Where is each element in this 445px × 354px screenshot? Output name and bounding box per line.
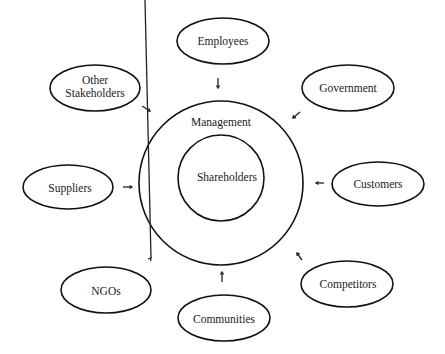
competitors-label: Competitors	[320, 278, 377, 291]
suppliers-label: Suppliers	[48, 182, 91, 195]
communities-label: Communities	[193, 313, 255, 326]
other-stakeholders-label: Other Stakeholders	[65, 74, 124, 100]
arrow-suppliers-icon	[123, 186, 132, 189]
arrow-employees-icon	[217, 78, 220, 88]
other-stakeholders-line1: Other	[65, 74, 124, 87]
ngos-label: NGOs	[91, 285, 120, 298]
shareholders-label: Shareholders	[197, 171, 257, 184]
arrow-government-icon	[293, 112, 300, 118]
arrow-other-stakeholders-icon	[142, 106, 150, 111]
arrow-customers-icon	[316, 182, 324, 185]
other-stakeholders-line2: Stakeholders	[65, 87, 124, 100]
management-label: Management	[191, 116, 251, 129]
employees-label: Employees	[197, 35, 248, 48]
arrow-communities-icon	[221, 272, 224, 282]
government-label: Government	[319, 82, 376, 95]
stakeholder-diagram: Management Shareholders Employees Other …	[0, 0, 445, 354]
arrow-competitors-icon	[297, 253, 302, 260]
customers-label: Customers	[353, 178, 402, 191]
